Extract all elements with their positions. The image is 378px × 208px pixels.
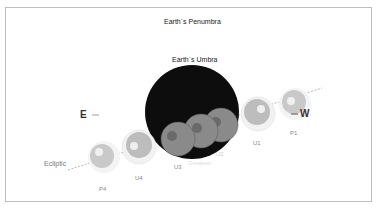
label-u2: U2	[216, 151, 224, 157]
label-p1: P1	[290, 130, 297, 136]
moon-u1	[241, 97, 275, 131]
label-u3: U3	[174, 164, 182, 170]
umbra-label: Earth`s Umbra	[172, 56, 218, 63]
eclipse-diagram	[0, 0, 378, 208]
moon-u3	[161, 122, 195, 156]
label-u4: U4	[135, 175, 143, 181]
label-greatest: Greatest	[188, 160, 211, 166]
penumbra-title: Earth`s Penumbra	[164, 18, 221, 25]
ecliptic-label: Ecliptic	[44, 160, 66, 167]
label-u1: U1	[253, 140, 261, 146]
moon-u4	[122, 130, 156, 164]
west-label: W	[300, 108, 309, 119]
moon-p4	[88, 141, 120, 173]
label-p4: P4	[99, 186, 106, 192]
east-label: E	[80, 109, 87, 120]
